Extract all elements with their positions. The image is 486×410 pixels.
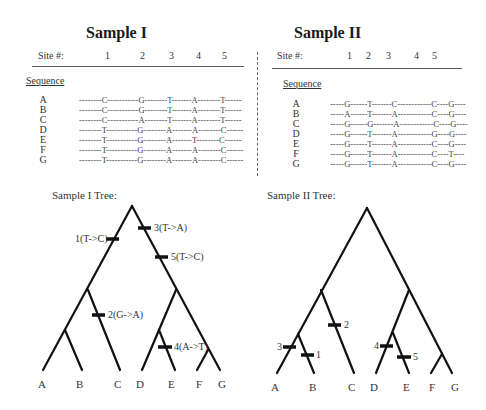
sample-2-mutation-2: 2 xyxy=(344,319,349,330)
sample-2-leaf-b: B xyxy=(309,381,316,393)
sample-2-leaf-g: G xyxy=(451,381,459,393)
sample-2-leaf-c: C xyxy=(348,381,355,393)
sample-2-mutation-5: 5 xyxy=(413,351,418,362)
sample-2-leaf-d: D xyxy=(370,381,378,393)
sample-2-mutation-4: 4 xyxy=(374,340,379,351)
sample-2-leaf-e: E xyxy=(403,381,410,393)
sample-2-mutation-3: 3 xyxy=(277,341,282,352)
sample-2-leaf-f: F xyxy=(429,381,435,393)
sample-2-leaf-a: A xyxy=(271,381,279,393)
sample-2-mutation-1: 1 xyxy=(316,349,321,360)
sample-2-tree xyxy=(0,0,486,410)
